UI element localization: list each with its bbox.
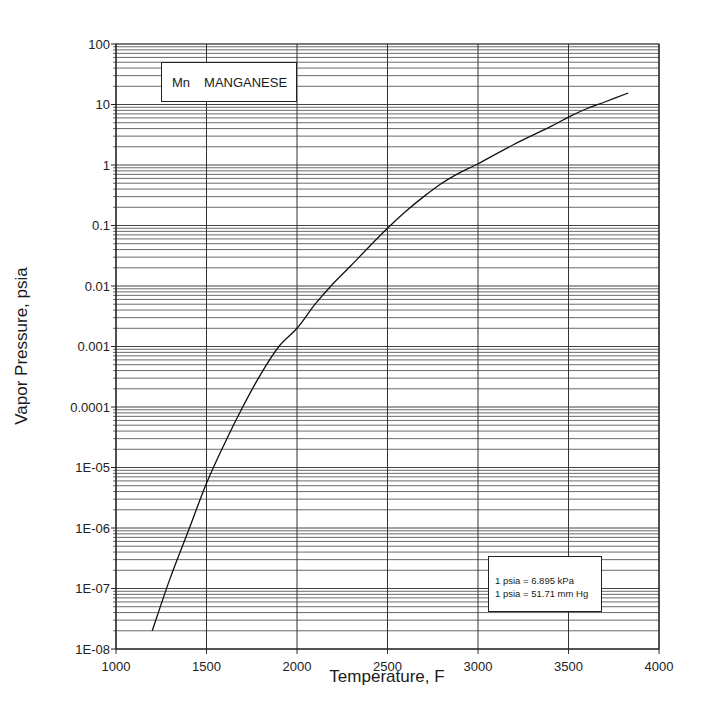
y-tick-label: 0.01 <box>85 279 110 294</box>
x-tick-label: 1000 <box>102 659 131 674</box>
x-axis-label: Temperature, F <box>329 667 444 687</box>
y-tick-label: 0.001 <box>77 339 110 354</box>
y-tick-label: 1E-07 <box>75 581 110 596</box>
vapor-pressure-curve <box>152 93 628 631</box>
vapor-pressure-chart: 10001500200025003000350040001001010.10.0… <box>0 0 710 728</box>
y-tick-label: 0.1 <box>92 218 110 233</box>
y-axis-label: Vapor Pressure, psia <box>12 267 32 424</box>
element-name: MANGANESE <box>204 75 287 90</box>
y-tick-label: 0.0001 <box>70 400 110 415</box>
x-tick-label: 1500 <box>192 659 221 674</box>
conversion-mmhg: 1 psia = 51.71 mm Hg <box>495 587 601 600</box>
x-tick-label: 4000 <box>645 659 674 674</box>
y-tick-label: 100 <box>88 37 110 52</box>
y-tick-label: 10 <box>96 97 110 112</box>
y-tick-label: 1E-08 <box>75 642 110 657</box>
element-title-box: Mn MANGANESE <box>161 62 297 102</box>
x-tick-label: 3500 <box>554 659 583 674</box>
y-tick-label: 1 <box>103 158 110 173</box>
x-tick-label: 3000 <box>464 659 493 674</box>
y-tick-label: 1E-06 <box>75 521 110 536</box>
x-tick-label: 2000 <box>283 659 312 674</box>
y-tick-label: 1E-05 <box>75 460 110 475</box>
conversion-kpa: 1 psia = 6.895 kPa <box>495 574 601 587</box>
element-symbol: Mn <box>172 75 190 90</box>
unit-conversion-box: 1 psia = 6.895 kPa 1 psia = 51.71 mm Hg <box>488 556 602 612</box>
